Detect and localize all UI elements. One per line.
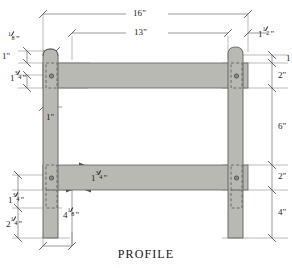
dim-label-post-bottom-left: 2 1 4 " bbox=[6, 218, 22, 229]
dim-label-post-top-offset-right: 1 1 2 " bbox=[258, 28, 274, 39]
dim-label-top-tenon-height: 1 3 4 " bbox=[10, 72, 26, 83]
lower-left-peg bbox=[49, 176, 53, 180]
joint-pegs bbox=[49, 74, 238, 180]
lower-right-peg bbox=[234, 176, 238, 180]
dim-label-top-rail-thickness: 2" bbox=[278, 71, 286, 80]
upper-rail bbox=[43, 63, 248, 88]
dim-label-rail-gap: 6" bbox=[278, 122, 286, 131]
fraction-glyph: 1 8 bbox=[68, 209, 76, 218]
dim-label-post-top-offset-left: 1 8 " bbox=[8, 33, 20, 44]
dim-label-tenon-inset: 1" bbox=[46, 113, 54, 122]
dim-label-lower-rail-thickness: 1 3 4 " bbox=[91, 172, 107, 183]
dim-label-inner-width: 13" bbox=[134, 28, 147, 37]
dim-label-lower-rail-thickness-right: 2" bbox=[278, 172, 286, 181]
dim-label-top-rail-right-edge: 1 bbox=[286, 54, 291, 63]
fraction-glyph: 1 8 bbox=[8, 33, 16, 42]
fraction-glyph: 3 4 bbox=[15, 72, 23, 81]
upper-left-peg bbox=[49, 74, 53, 78]
upper-right-peg bbox=[234, 74, 238, 78]
dim-label-post-bottom-right: 4" bbox=[278, 208, 286, 217]
drawing-title: PROFILE bbox=[0, 247, 292, 262]
fraction-glyph: 1 2 bbox=[263, 28, 271, 37]
fraction-glyph: 1 4 bbox=[11, 218, 19, 227]
lower-rail bbox=[43, 165, 248, 190]
dim-label-overall-width: 16" bbox=[133, 9, 146, 18]
profile-drawing-sheet: 16" 13" 1 8 " 1 1 2 " 1" 1 3 4 " 1 bbox=[0, 0, 292, 268]
fraction-glyph: 3 4 bbox=[96, 172, 104, 181]
dim-label-lower-mortise-height: 1 3 4 " bbox=[8, 194, 24, 205]
dim-label-top-rail-top: 1" bbox=[2, 52, 10, 61]
fraction-glyph: 3 4 bbox=[13, 194, 21, 203]
drawing-canvas bbox=[0, 0, 292, 268]
dim-label-rail-to-bottom: 4 1 8 " bbox=[63, 209, 79, 220]
